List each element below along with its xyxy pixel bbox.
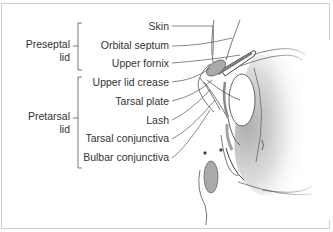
bracket-pretarsal (73, 77, 82, 168)
globe (224, 40, 330, 220)
eyelid-illustration (0, 0, 333, 232)
bracket-preseptal (73, 23, 82, 70)
